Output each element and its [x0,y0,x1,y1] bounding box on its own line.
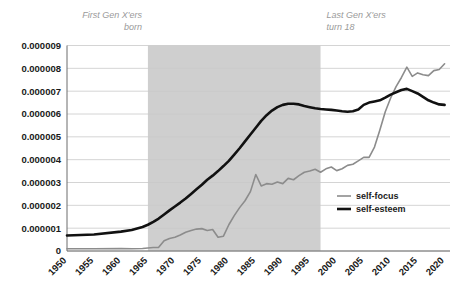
y-tick-label-1: 0.000008 [21,63,61,74]
y-tick-label-5: 0.000004 [21,154,61,165]
shaded-region-layer [148,46,321,252]
annotation-line1: First Gen X'ers [82,10,142,20]
y-tick-label-6: 0.000003 [21,177,61,188]
line-chart: 0.0000090.0000080.0000070.0000060.000005… [0,0,457,297]
chart-container: 0.0000090.0000080.0000070.0000060.000005… [0,0,457,297]
legend-label-self-focus: self-focus [356,191,399,201]
y-tick-label-4: 0.000005 [21,131,61,142]
y-tick-label-3: 0.000006 [21,108,61,119]
legend-label-self-esteem: self-esteem [356,204,406,214]
gen-x-shaded-band [148,46,321,252]
y-tick-label-2: 0.000007 [21,86,61,97]
annotation-line2: turn 18 [327,22,355,32]
y-tick-label-7: 0.000002 [21,200,61,211]
y-tick-label-0: 0.000009 [21,40,61,51]
annotation-line1: Last Gen X'ers [327,10,387,20]
y-tick-label-8: 0.000001 [21,223,61,234]
annotation-line2: born [124,22,142,32]
